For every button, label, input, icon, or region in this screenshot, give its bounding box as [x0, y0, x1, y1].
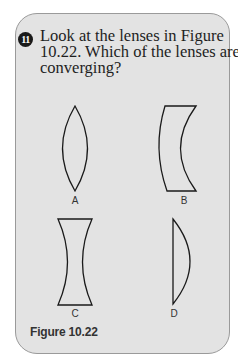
lens-label-b: B — [174, 195, 194, 206]
lens-label-c: C — [65, 308, 85, 319]
figure-caption: Figure 10.22 — [30, 325, 98, 339]
lens-label-a: A — [65, 195, 85, 206]
lens-a-biconvex — [63, 106, 88, 191]
lens-c-biconcave — [58, 219, 92, 305]
lens-figure — [0, 0, 238, 361]
lens-label-d: D — [164, 308, 184, 319]
lens-b-meniscus — [159, 106, 196, 191]
lens-d-plano-convex — [173, 219, 190, 304]
